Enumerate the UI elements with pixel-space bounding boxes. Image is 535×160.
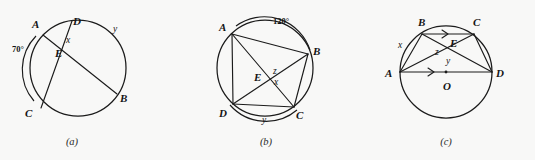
angle-label-x-a: x bbox=[65, 35, 71, 45]
figure-b: A B C D E z x y 120° (b) bbox=[178, 0, 358, 160]
figure-c: A B C D E O x z y (c) bbox=[356, 0, 535, 160]
angle-label-y-c: y bbox=[445, 56, 451, 66]
point-label-d-b: D bbox=[218, 107, 227, 119]
angle-label-z-c: z bbox=[434, 47, 439, 57]
arc-label-y-a: y bbox=[112, 24, 118, 34]
arc-label-120-b: 120° bbox=[273, 16, 289, 26]
point-label-b-c: B bbox=[417, 16, 425, 28]
diagonal-ac-b bbox=[232, 34, 294, 107]
arc-label-70-a: 70° bbox=[12, 44, 24, 54]
angle-label-z-b: z bbox=[272, 66, 277, 76]
chord-ab-b bbox=[232, 34, 308, 54]
point-label-c-a: C bbox=[25, 107, 33, 119]
figure-a: A B C D E x y 70° (a) bbox=[0, 0, 180, 160]
circle-a bbox=[30, 20, 126, 116]
point-label-a-c: A bbox=[384, 67, 392, 79]
chord-cd-b bbox=[233, 104, 294, 107]
point-label-b-b: B bbox=[312, 45, 320, 57]
point-label-b-a: B bbox=[119, 92, 127, 104]
circle-b bbox=[217, 20, 313, 116]
point-label-d-a: D bbox=[72, 15, 81, 27]
point-label-e-c: E bbox=[449, 37, 457, 49]
point-label-e-b: E bbox=[253, 71, 261, 83]
caption-a: (a) bbox=[66, 136, 79, 148]
caption-c: (c) bbox=[440, 136, 452, 148]
arc-label-y-b: y bbox=[261, 115, 267, 125]
chord-ab-a bbox=[43, 35, 117, 94]
point-label-a-a: A bbox=[31, 18, 39, 30]
side-label-x-c: x bbox=[397, 40, 403, 50]
centre-dot-o-c bbox=[445, 71, 448, 74]
point-label-o-c: O bbox=[443, 80, 451, 92]
point-label-e-a: E bbox=[54, 47, 62, 59]
angle-label-x-b: x bbox=[273, 77, 279, 87]
point-label-a-b: A bbox=[218, 21, 226, 33]
point-label-c-c: C bbox=[473, 16, 481, 28]
caption-b: (b) bbox=[260, 136, 273, 148]
arc-mark-70-a bbox=[22, 36, 36, 101]
chord-da-b bbox=[232, 34, 233, 104]
point-label-c-b: C bbox=[296, 109, 304, 121]
geometry-figure-sheet: A B C D E x y 70° (a) A B C D E z bbox=[0, 0, 535, 160]
point-label-d-c: D bbox=[495, 67, 504, 79]
chord-cd-c bbox=[474, 34, 492, 72]
